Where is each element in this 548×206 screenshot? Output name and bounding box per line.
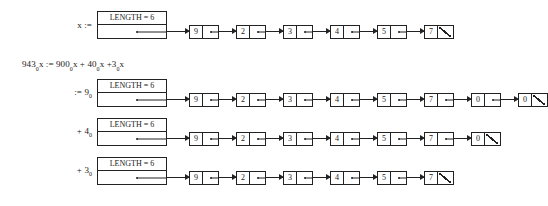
list-node-terminal: 7 [424, 25, 454, 39]
equation-sub-4: 0 [116, 66, 119, 72]
pointer-dot-icon [351, 99, 353, 101]
list-node: 9 [189, 171, 219, 185]
list-node-terminal: 0 [471, 132, 501, 146]
pointer-dot-icon [351, 31, 353, 33]
row-label-900x: := 90 [0, 88, 97, 99]
arrow-icon [360, 177, 377, 178]
header-pointer-cell-x [98, 25, 166, 38]
arrow-icon [407, 99, 424, 100]
node-chain-900x: 9 2 3 [167, 93, 548, 107]
list-row-40x: + 40 LENGTH = 6 9 2 [0, 115, 501, 149]
list-node: 2 [236, 132, 266, 146]
node-chain-x: 9 2 3 [167, 25, 454, 39]
node-value: 7 [425, 94, 438, 106]
node-pointer-cell [297, 94, 312, 106]
node-value: 3 [284, 94, 297, 106]
pointer-stub-icon [305, 99, 313, 100]
node-value: 2 [237, 94, 250, 106]
row-label-900x-sub: 0 [89, 93, 92, 99]
arrow-icon [167, 31, 189, 32]
list-row-x: x := LENGTH = 6 9 2 [0, 8, 454, 42]
header-length-x: LENGTH = 6 [98, 12, 166, 25]
node-value: 4 [331, 26, 344, 38]
node-pointer-cell [250, 26, 265, 38]
pointer-stub-icon [137, 99, 166, 100]
list-node: 9 [189, 25, 219, 39]
node-value: 5 [378, 94, 391, 106]
row-label-x: x := [0, 21, 97, 30]
pointer-stub-icon [305, 31, 313, 32]
list-row-900x: := 90 LENGTH = 6 9 2 [0, 76, 548, 110]
pointer-dot-icon [210, 31, 212, 33]
pointer-stub-icon [493, 99, 501, 100]
list-node: 5 [377, 93, 407, 107]
node-pointer-cell [391, 133, 406, 145]
row-label-3x: + 30 [0, 166, 97, 177]
node-value: 4 [331, 133, 344, 145]
node-value: 5 [378, 26, 391, 38]
arrow-icon [219, 31, 236, 32]
node-pointer-cell [297, 133, 312, 145]
header-pointer-cell-40x [98, 132, 166, 145]
list-node: 5 [377, 132, 407, 146]
equation-part-2: x := 900 [39, 59, 70, 69]
list-node: 3 [283, 132, 313, 146]
arrow-icon [167, 99, 189, 100]
pointer-stub-icon [137, 138, 166, 139]
header-pointer-cell-3x [98, 171, 166, 184]
node-pointer-cell [344, 172, 359, 184]
pointer-stub-icon [137, 31, 166, 32]
list-row-3x: + 30 LENGTH = 6 9 2 [0, 154, 454, 188]
arrow-icon [407, 138, 424, 139]
list-node: 3 [283, 171, 313, 185]
header-pointer-cell-900x [98, 93, 166, 106]
header-block-40x: LENGTH = 6 [97, 118, 167, 146]
pointer-dot-icon [398, 99, 400, 101]
node-pointer-cell [250, 133, 265, 145]
node-pointer-cell [344, 26, 359, 38]
node-pointer-cell [344, 94, 359, 106]
node-value: 0 [519, 94, 532, 106]
node-pointer-cell [485, 94, 500, 106]
arrow-icon [407, 177, 424, 178]
node-pointer-cell [297, 26, 312, 38]
pointer-stub-icon [211, 31, 219, 32]
row-label-900x-main: := 9 [74, 87, 89, 97]
arrow-icon [219, 99, 236, 100]
pointer-stub-icon [352, 177, 360, 178]
equation-part-4: x +3 [100, 59, 117, 69]
arrow-icon [219, 138, 236, 139]
row-label-40x-sub: 0 [89, 132, 92, 138]
pointer-dot-icon [257, 177, 259, 179]
pointer-stub-icon [399, 138, 407, 139]
pointer-stub-icon [258, 99, 266, 100]
header-block-x: LENGTH = 6 [97, 11, 167, 39]
header-block-900x: LENGTH = 6 [97, 79, 167, 107]
node-pointer-cell [391, 94, 406, 106]
node-pointer-cell [250, 94, 265, 106]
arrow-icon [266, 138, 283, 139]
node-pointer-cell [391, 26, 406, 38]
pointer-dot-icon [445, 138, 447, 140]
arrow-icon [360, 99, 377, 100]
null-pointer-icon [438, 172, 453, 184]
pointer-dot-icon [351, 177, 353, 179]
pointer-stub-icon [211, 99, 219, 100]
node-chain-3x: 9 2 3 [167, 171, 454, 185]
list-node: 4 [330, 25, 360, 39]
pointer-stub-icon [211, 138, 219, 139]
arrow-icon [167, 138, 189, 139]
header-length-40x: LENGTH = 6 [98, 119, 166, 132]
header-length-3x: LENGTH = 6 [98, 158, 166, 171]
arrow-icon [313, 138, 330, 139]
pointer-dot-icon [210, 99, 212, 101]
pointer-dot-icon [445, 99, 447, 101]
node-pointer-cell [203, 172, 218, 184]
list-node: 7 [424, 93, 454, 107]
node-value: 9 [190, 94, 203, 106]
node-value: 3 [284, 172, 297, 184]
arrow-icon [266, 31, 283, 32]
arrow-icon [266, 99, 283, 100]
node-value: 5 [378, 133, 391, 145]
